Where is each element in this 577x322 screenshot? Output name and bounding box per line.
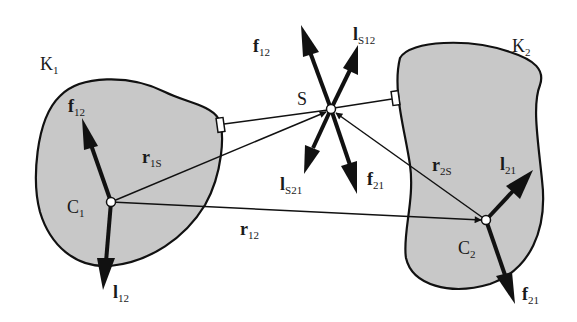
point-c2 (482, 216, 491, 225)
attachment-k2 (391, 91, 400, 106)
label-ls12-s: lS12 (353, 24, 375, 46)
attachment-k1 (216, 118, 225, 133)
label-f21-s: f21 (367, 169, 384, 191)
point-c1 (107, 198, 116, 207)
vector-f21-s (331, 109, 357, 194)
vector-ls12-s (331, 45, 358, 109)
label-f12-s: f12 (253, 36, 270, 58)
label-k2: K2 (512, 36, 531, 58)
body-k1 (36, 79, 222, 266)
label-s: S (297, 89, 307, 109)
point-s (327, 105, 336, 114)
link-k2-s (334, 99, 392, 108)
label-ls21-s: lS21 (280, 174, 302, 196)
label-k1: K1 (40, 54, 59, 76)
label-r12: r12 (240, 219, 259, 241)
force-diagram: K1 K2 C1 C2 S f12 l12 l21 f21 f12 lS12 l… (0, 0, 577, 322)
label-f21-c2: f21 (522, 284, 539, 306)
label-l12-c1: l12 (113, 282, 129, 304)
